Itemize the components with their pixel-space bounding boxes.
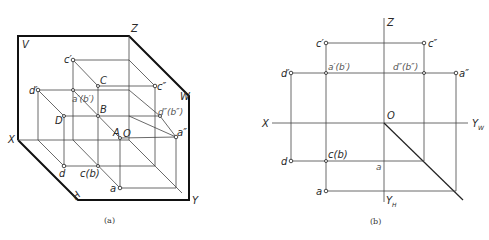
point-d-prime xyxy=(289,71,293,75)
point-a xyxy=(324,189,328,193)
label-yh-axis: YH xyxy=(386,195,397,208)
label-yw-axis: YW xyxy=(472,118,485,131)
label-v-plane: V xyxy=(22,39,30,50)
label-c-dprime: c″ xyxy=(428,38,437,49)
label-z-axis: Z xyxy=(386,17,395,28)
label-D: D xyxy=(55,115,63,126)
proj-line xyxy=(38,140,64,166)
label-origin: O xyxy=(387,110,395,121)
label-w-plane: W xyxy=(180,91,191,102)
label-a-prime-b-prime: a′(b′) xyxy=(328,62,350,72)
point-c-dprime xyxy=(422,41,426,45)
label-A-visible: A xyxy=(112,127,120,138)
point-D xyxy=(63,115,66,118)
label-a-prime-b-prime: a′(b′) xyxy=(72,94,94,104)
caption-a: (a) xyxy=(104,216,115,225)
point-a-prime-b-prime xyxy=(72,89,75,92)
label-c-prime: c′ xyxy=(316,38,324,49)
label-d: d xyxy=(59,168,66,179)
point-c-prime xyxy=(324,41,328,45)
caption-b: (b) xyxy=(370,217,381,226)
proj-line xyxy=(73,140,120,188)
proj-line xyxy=(38,90,64,116)
point-a-dprime xyxy=(454,71,458,75)
label-origin: O xyxy=(123,128,131,139)
label-a: a xyxy=(110,183,116,194)
figure-a: V Z W X Y H O c′ C c″ d′ a′(b′) B D d″(b… xyxy=(7,23,199,225)
label-d-dprime-b-dprime: d″(b″) xyxy=(158,107,183,117)
label-z-axis: Z xyxy=(130,23,139,34)
label-d-prime: d′ xyxy=(29,85,38,96)
auxiliary-45-line xyxy=(384,123,463,200)
label-B: B xyxy=(100,104,107,115)
label-c-prime: c′ xyxy=(64,54,72,65)
proj-line xyxy=(129,116,176,137)
proj-line xyxy=(73,60,98,86)
label-a-dprime: a″ xyxy=(177,127,187,138)
label-d: d xyxy=(281,156,288,167)
label-d-prime: d′ xyxy=(281,68,290,79)
point-a xyxy=(118,186,122,190)
label-c-dprime: c″ xyxy=(157,81,166,92)
label-y-axis: Y xyxy=(192,195,199,206)
label-c-b: c(b) xyxy=(328,149,348,160)
label-c-b: c(b) xyxy=(80,168,100,179)
figure-b: Z X O YW YH c′ c″ d′ a′(b′) d″(b″) a″ d … xyxy=(261,17,485,226)
label-a-dprime: a″ xyxy=(459,68,469,79)
v-plane-frame xyxy=(18,36,189,200)
point-d xyxy=(289,159,293,163)
label-d-dprime-b-dprime: d″(b″) xyxy=(393,62,418,72)
label-x-axis: X xyxy=(261,118,270,129)
label-C: C xyxy=(100,75,107,86)
point-d-dprime-b-dprime xyxy=(423,72,426,75)
proj-line xyxy=(129,60,155,86)
label-a-mid: a xyxy=(376,162,382,172)
y-axis xyxy=(129,140,182,193)
label-a: a xyxy=(316,186,322,197)
diagram-canvas: V Z W X Y H O c′ C c″ d′ a′(b′) B D d″(b… xyxy=(0,0,489,240)
label-x-axis: X xyxy=(7,134,16,145)
